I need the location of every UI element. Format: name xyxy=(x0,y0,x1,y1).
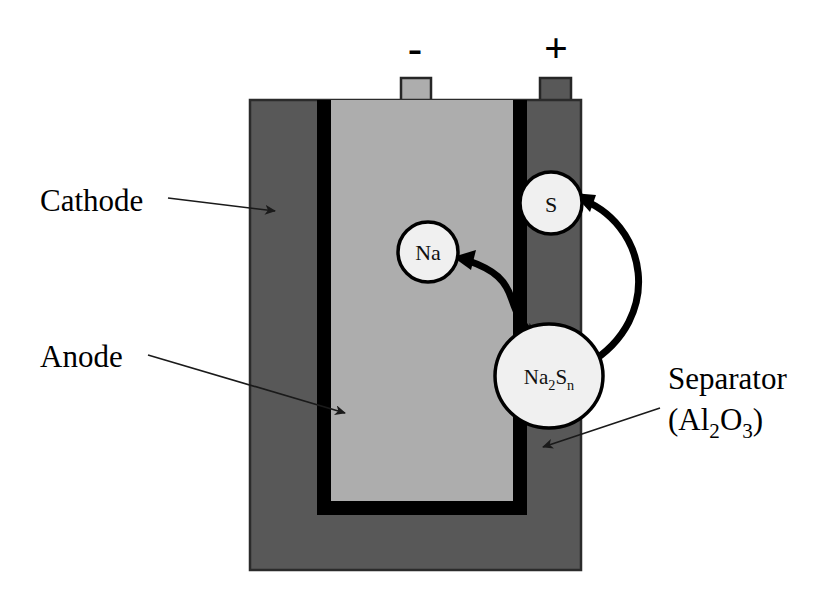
diagram-canvas: Na2Sn : big arc bulging to the right, ou… xyxy=(0,0,824,604)
separator-formula-prefix: (Al xyxy=(668,402,709,437)
na2sn-sub2: n xyxy=(567,377,574,393)
separator-formula-mid: O xyxy=(720,402,742,437)
na2sn-mid: S xyxy=(555,365,567,389)
species-na2sn: Na2Sn xyxy=(495,324,603,428)
separator-formula-suffix: ) xyxy=(753,402,763,437)
na2sn-prefix: Na xyxy=(524,365,549,389)
species-s: S xyxy=(520,172,582,234)
species-na2sn-circle xyxy=(495,324,603,428)
cathode-label: Cathode xyxy=(40,183,143,218)
species-na-label: Na xyxy=(415,240,441,265)
anode-body xyxy=(331,100,513,501)
species-na: Na xyxy=(398,222,458,282)
separator-label-line1: Separator xyxy=(668,361,787,396)
separator-label-line2: (Al2O3) xyxy=(668,402,763,443)
species-s-label: S xyxy=(545,192,557,217)
na2sn-sub1: 2 xyxy=(548,377,555,393)
positive-polarity-symbol: + xyxy=(544,25,568,71)
separator-formula-sub1: 2 xyxy=(709,419,720,443)
separator-formula-sub2: 3 xyxy=(742,419,753,443)
anode-label: Anode xyxy=(40,339,123,374)
battery-diagram: Na2Sn : big arc bulging to the right, ou… xyxy=(0,0,824,604)
negative-polarity-symbol: - xyxy=(408,25,422,71)
